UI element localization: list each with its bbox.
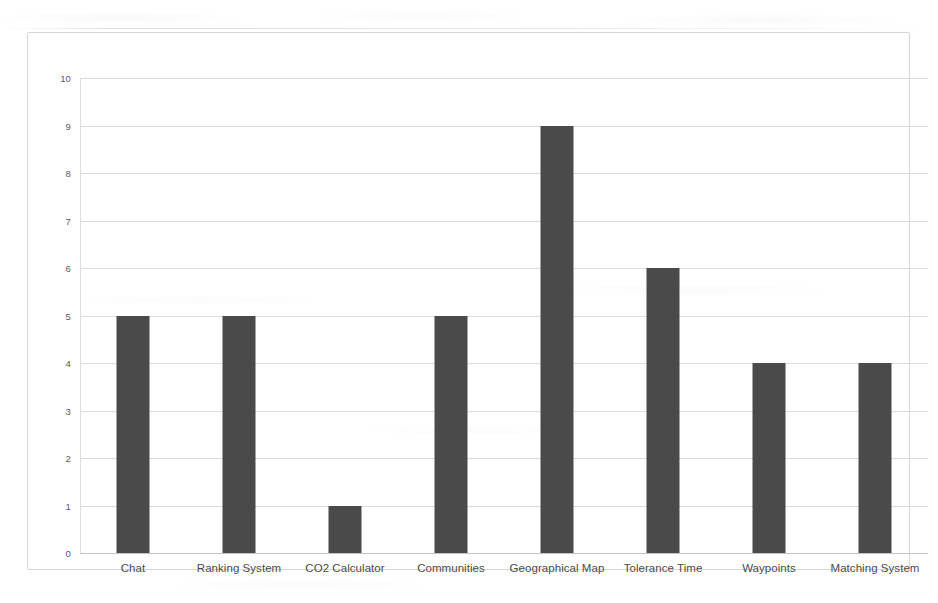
bar-slot	[716, 78, 822, 553]
bar-slot	[822, 78, 928, 553]
x-axis-category-label: Matching System	[822, 560, 928, 577]
bar	[859, 363, 892, 553]
y-axis-tick-label: 4	[66, 358, 71, 369]
bar-slot	[610, 78, 716, 553]
chart-frame: 109876543210 ChatRanking SystemCO2 Calcu…	[27, 32, 910, 570]
x-axis-category-labels: ChatRanking SystemCO2 CalculatorCommunit…	[80, 560, 928, 603]
bar	[329, 506, 362, 554]
x-axis-category-label: Geographical Map	[504, 560, 610, 577]
x-axis-category-label: Waypoints	[716, 560, 822, 577]
bar-slot	[398, 78, 504, 553]
gridline	[80, 553, 928, 554]
y-axis-tick-label: 7	[66, 215, 71, 226]
bar-slot	[504, 78, 610, 553]
bar-slot	[80, 78, 186, 553]
y-axis-tick-label: 0	[66, 548, 71, 559]
y-axis-tick-label: 6	[66, 263, 71, 274]
bar-series	[80, 78, 928, 553]
scan-artifact-line	[0, 28, 938, 29]
bar	[435, 316, 468, 554]
y-axis-tick-label: 1	[66, 500, 71, 511]
y-axis-tick-label: 10	[60, 73, 71, 84]
x-axis-category-label: Chat	[80, 560, 186, 577]
y-axis-tick-label: 2	[66, 453, 71, 464]
y-axis-tick-label: 9	[66, 120, 71, 131]
y-axis-tick-label: 5	[66, 310, 71, 321]
y-axis-tick-label: 3	[66, 405, 71, 416]
x-axis-category-label: Tolerance Time	[610, 560, 716, 577]
x-axis-category-label: Ranking System	[186, 560, 292, 577]
bar-slot	[186, 78, 292, 553]
y-axis-tick-label: 8	[66, 168, 71, 179]
x-axis-category-label: Communities	[398, 560, 504, 577]
x-axis-category-label: CO2 Calculator	[292, 560, 398, 577]
bar	[647, 268, 680, 553]
bar	[223, 316, 256, 554]
bar	[753, 363, 786, 553]
bar	[117, 316, 150, 554]
bar-slot	[292, 78, 398, 553]
bar	[541, 126, 574, 554]
